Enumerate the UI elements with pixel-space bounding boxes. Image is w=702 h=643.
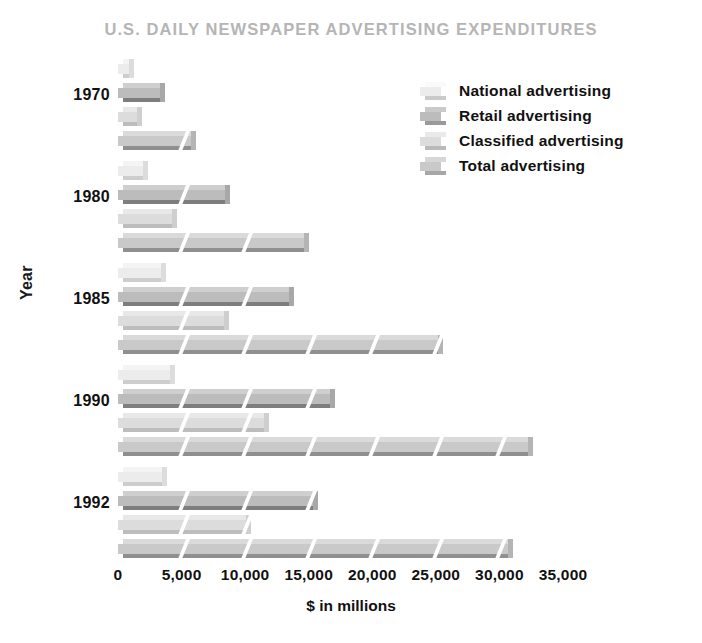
x-axis-tick-15000: 15,000 [284,566,333,584]
bar-shadow-face [123,428,269,432]
y-axis-tick-1980: 1980 [26,188,110,206]
bar-group-1985 [118,263,563,359]
bar-1980-national [118,161,143,176]
bar-end-cap [289,287,294,306]
bar-shadow-face [123,506,318,510]
bar-top-face [123,491,318,496]
bar-top-face [123,539,513,544]
legend-swatch-total-icon [420,157,446,174]
x-axis-title: $ in millions [0,597,702,615]
bar-front-face [118,292,289,302]
legend-swatch-national-icon [420,82,446,99]
bar-front-face [118,112,137,122]
x-axis-tick-10000: 10,000 [221,566,270,584]
bar-shadow-face [123,326,229,330]
bar-front-face [118,166,143,176]
bar-1985-national [118,263,161,278]
bar-1985-classified [118,311,224,326]
bar-1985-retail [118,287,289,302]
legend-label-national: National advertising [459,82,611,100]
bar-1990-total [118,437,528,452]
legend-swatch-retail-icon [420,107,446,124]
x-axis-tick-30000: 30,000 [475,566,524,584]
bar-group-1992 [118,467,563,563]
bar-end-cap [330,389,335,408]
bar-end-cap [225,185,230,204]
bar-end-cap [224,311,229,330]
bar-1992-national [118,467,162,482]
bar-1992-total [118,539,508,554]
bar-front-face [118,214,172,224]
bar-shadow-face [123,482,167,486]
bar-shadow-face [123,530,251,534]
bar-front-face [118,316,224,326]
bar-top-face [123,365,175,370]
bar-group-1990 [118,365,563,461]
bar-1990-classified [118,413,264,428]
bar-end-cap [129,59,134,78]
legend-item-classified[interactable]: Classified advertising [420,128,624,153]
chart-legend: National advertisingRetail advertisingCl… [420,78,624,178]
bar-front-face [118,268,161,278]
x-axis-tick-labels: 05,00010,00015,00020,00025,00030,00035,0… [118,566,563,590]
x-axis-tick-5000: 5,000 [162,566,202,584]
bar-1992-retail [118,491,313,506]
legend-item-retail[interactable]: Retail advertising [420,103,624,128]
bar-end-cap [508,539,513,558]
bar-front-face [118,88,160,98]
x-axis-tick-0: 0 [114,566,123,584]
chart-title: U.S. DAILY NEWSPAPER ADVERTISING EXPENDI… [0,20,702,39]
x-axis-tick-20000: 20,000 [348,566,397,584]
bar-front-face [118,238,304,248]
bar-front-face [118,496,313,506]
legend-label-total: Total advertising [459,157,585,175]
bar-shadow-face [123,248,309,252]
bar-top-face [123,467,167,472]
bar-1990-national [118,365,170,380]
bar-end-cap [528,437,533,456]
bar-end-cap [161,263,166,282]
legend-label-classified: Classified advertising [459,132,624,150]
bar-end-cap [191,131,196,150]
y-axis-tick-labels: 19701980198519901992 [0,55,110,565]
bar-top-face [123,389,335,394]
y-axis-tick-1985: 1985 [26,290,110,308]
bar-top-face [123,209,177,214]
bar-top-face [123,287,294,292]
bar-shadow-face [123,452,533,456]
legend-label-retail: Retail advertising [459,107,592,125]
legend-item-total[interactable]: Total advertising [420,153,624,178]
bar-shadow-face [123,350,443,354]
bar-end-cap [137,107,142,126]
bar-shadow-face [123,278,166,282]
bar-1970-retail [118,83,160,98]
bar-shadow-face [123,98,165,102]
bar-end-cap [264,413,269,432]
chart-container: U.S. DAILY NEWSPAPER ADVERTISING EXPENDI… [0,0,702,643]
bar-1990-retail [118,389,330,404]
bar-front-face [118,340,438,350]
bar-top-face [123,185,230,190]
x-axis-tick-35000: 35,000 [539,566,588,584]
bar-front-face [118,64,129,74]
bar-1980-retail [118,185,225,200]
bar-1992-classified [118,515,246,530]
bar-front-face [118,190,225,200]
y-axis-tick-1990: 1990 [26,392,110,410]
bar-front-face [118,472,162,482]
bar-end-cap [304,233,309,252]
bar-end-cap [143,161,148,180]
bar-1970-total [118,131,191,146]
bar-shadow-face [123,224,177,228]
bar-1980-classified [118,209,172,224]
bar-1985-total [118,335,438,350]
bar-end-cap [172,209,177,228]
legend-item-national[interactable]: National advertising [420,78,624,103]
bar-front-face [118,394,330,404]
bar-shadow-face [123,146,196,150]
bar-top-face [123,263,166,268]
bar-end-cap [160,83,165,102]
bar-top-face [123,335,443,340]
bar-front-face [118,370,170,380]
bar-end-cap [162,467,167,486]
